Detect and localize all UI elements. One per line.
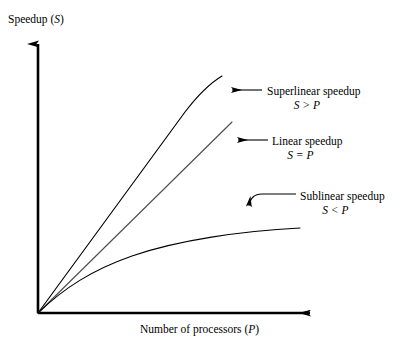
callout-superlinear: Superlinear speedup S > P: [267, 84, 361, 112]
curve-sublinear: [38, 228, 300, 313]
callout-sublinear-relation: S < P: [300, 203, 385, 217]
speedup-chart-figure: Speedup (S) Number of processors (P) Sup…: [0, 0, 408, 350]
callout-superlinear-label: Superlinear speedup: [267, 84, 361, 98]
callout-linear-label: Linear speedup: [272, 134, 343, 148]
y-axis-title-text: Speedup (: [8, 13, 54, 25]
callout-superlinear-relation: S > P: [267, 98, 361, 112]
callout-linear-relation: S = P: [272, 148, 343, 162]
callout-sublinear-label: Sublinear speedup: [300, 189, 385, 203]
callout-linear: Linear speedup S = P: [272, 134, 343, 162]
callout-arrow-sublinear: [249, 194, 296, 206]
chart-plot-area: [0, 0, 408, 350]
callout-sublinear: Sublinear speedup S < P: [300, 189, 385, 217]
curve-superlinear: [38, 76, 222, 313]
curve-linear: [38, 122, 232, 313]
y-axis-title-close: ): [60, 13, 64, 25]
y-axis-title: Speedup (S): [8, 12, 64, 26]
x-axis-title-text: Number of processors (: [140, 323, 248, 335]
x-axis-title: Number of processors (P): [140, 322, 259, 336]
x-axis-title-close: ): [255, 323, 259, 335]
